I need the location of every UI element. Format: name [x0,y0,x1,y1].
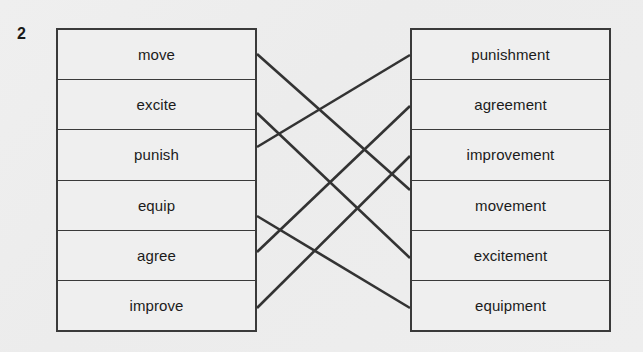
connector-line[interactable] [257,216,410,308]
connector-line[interactable] [257,54,410,190]
right-word-column: punishment agreement improvement movemen… [410,28,611,332]
left-word-label: move [138,47,175,62]
left-word-label: excite [137,97,177,112]
connector-line[interactable] [257,113,410,258]
right-word-row[interactable]: movement [412,181,609,231]
right-word-label: movement [475,197,546,212]
right-word-row[interactable]: excitement [412,231,609,281]
right-word-label: equipment [475,297,546,312]
left-word-label: agree [137,247,176,262]
right-word-label: improvement [467,147,555,162]
left-word-row[interactable]: agree [58,231,255,281]
right-word-row[interactable]: improvement [412,130,609,180]
left-word-row[interactable]: improve [58,281,255,330]
left-word-row[interactable]: move [58,30,255,80]
right-word-label: agreement [474,97,547,112]
left-word-row[interactable]: equip [58,181,255,231]
right-word-label: excitement [474,247,548,262]
left-word-row[interactable]: punish [58,130,255,180]
right-word-label: punishment [471,47,550,62]
connector-line[interactable] [257,156,410,308]
exercise-page: 2 move excite punish equip agree improve… [0,0,643,352]
left-word-label: punish [134,147,179,162]
left-word-column: move excite punish equip agree improve [56,28,257,332]
left-word-row[interactable]: excite [58,80,255,130]
right-word-row[interactable]: agreement [412,80,609,130]
right-word-row[interactable]: punishment [412,30,609,80]
connector-line[interactable] [257,106,410,252]
left-word-label: improve [129,297,183,312]
connector-line[interactable] [257,55,410,147]
left-word-label: equip [138,197,175,212]
right-word-row[interactable]: equipment [412,281,609,330]
question-number: 2 [17,26,26,42]
